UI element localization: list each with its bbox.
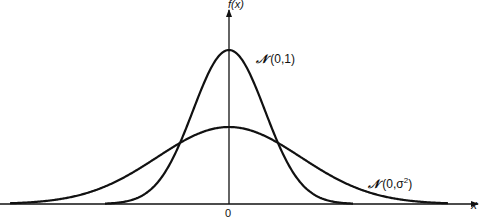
script-n-symbol: 𝒩 xyxy=(256,52,267,66)
script-n-symbol: 𝒩 xyxy=(368,177,379,191)
normal-distribution-chart: f(x) x 0 𝒩 (0,1) 𝒩 (0,σ2) xyxy=(0,0,480,223)
y-axis-label: f(x) xyxy=(228,0,244,10)
x-axis-label: x xyxy=(471,198,477,212)
curve-label-args: (0,1) xyxy=(267,52,295,66)
origin-tick-label: 0 xyxy=(225,207,231,219)
curve-label-close: ) xyxy=(408,177,412,191)
curve-label-args: (0,σ xyxy=(379,177,404,191)
curve-label-n-0-1: 𝒩 (0,1) xyxy=(256,52,295,66)
curve-label-n-0-sigma2: 𝒩 (0,σ2) xyxy=(368,176,412,191)
